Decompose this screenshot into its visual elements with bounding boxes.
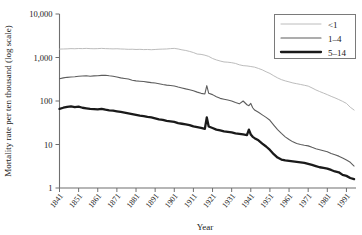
- y-axis-title: Mortality rate per ten thousand (log sca…: [3, 25, 13, 176]
- x-axis-title: Year: [197, 222, 214, 232]
- mortality-line-chart: Mortality rate per ten thousand (log sca…: [0, 0, 362, 235]
- y-tick-label: 1,000: [33, 53, 52, 63]
- y-axis-title-group: Mortality rate per ten thousand (log sca…: [3, 25, 13, 176]
- x-tick-label: 1951: [259, 192, 276, 210]
- y-tick-marks: [56, 14, 60, 188]
- x-tick-label: 1851: [67, 192, 84, 210]
- series-line-2: [60, 106, 355, 179]
- x-tick-label: 1861: [86, 192, 103, 210]
- x-tick-labels: 1841185118611871188118911901191119211931…: [48, 192, 352, 210]
- x-tick-label: 1961: [278, 192, 295, 210]
- x-tick-label: 1901: [163, 192, 180, 210]
- x-tick-label: 1881: [125, 192, 142, 210]
- chart-figure: Mortality rate per ten thousand (log sca…: [0, 0, 362, 235]
- y-tick-labels: 10,0001,000100101: [29, 9, 52, 193]
- x-tick-label: 1921: [201, 192, 218, 210]
- x-tick-label: 1841: [48, 192, 65, 210]
- x-tick-label: 1981: [316, 192, 333, 210]
- legend-label-2: 5–14: [328, 48, 347, 58]
- y-tick-label: 1: [48, 183, 52, 193]
- x-tick-label: 1891: [144, 192, 161, 210]
- y-tick-label: 10: [44, 140, 53, 150]
- x-tick-marks: [60, 188, 347, 192]
- y-tick-label: 100: [40, 96, 53, 106]
- chart-legend: <11–45–14: [275, 15, 356, 59]
- x-tick-label: 1931: [220, 192, 237, 210]
- series-paths: [60, 48, 355, 179]
- x-tick-label: 1941: [239, 192, 256, 210]
- x-tick-label: 1971: [297, 192, 314, 210]
- legend-label-0: <1: [328, 20, 338, 30]
- y-tick-label: 10,000: [29, 9, 52, 19]
- x-tick-label: 1911: [182, 192, 199, 210]
- x-tick-label: 1871: [106, 192, 123, 210]
- x-tick-label: 1991: [335, 192, 352, 210]
- legend-label-1: 1–4: [328, 34, 342, 44]
